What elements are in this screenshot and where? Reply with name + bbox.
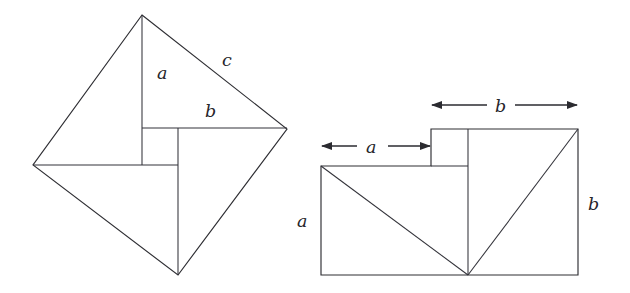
label-c-left: c: [222, 50, 232, 70]
label-b-dimension: b: [495, 96, 506, 116]
stepped-rectangle-outline: [321, 129, 578, 275]
dimension-b-arrowhead-right: [567, 101, 578, 109]
right-panel-stepped-rectangle: a b a b: [297, 96, 599, 275]
dimension-a: a: [321, 137, 431, 157]
diamond-outline: [33, 15, 287, 275]
diagram-canvas: a b c a b a: [0, 0, 630, 293]
label-a-left: a: [157, 63, 167, 83]
label-b-side: b: [588, 194, 599, 214]
dimension-b-arrowhead-left: [431, 101, 442, 109]
label-b-left: b: [205, 101, 216, 121]
diagonal-right-triangle: [468, 129, 578, 275]
figure-root: a b c a b a: [0, 0, 630, 293]
left-panel-tilted-square: a b c: [33, 15, 287, 275]
dimension-b: b: [431, 96, 578, 116]
diagonal-left-triangle: [321, 166, 468, 275]
label-a-side: a: [297, 211, 307, 231]
dimension-a-arrowhead-left: [321, 142, 332, 150]
label-a-dimension: a: [366, 137, 376, 157]
dimension-a-arrowhead-right: [420, 142, 431, 150]
